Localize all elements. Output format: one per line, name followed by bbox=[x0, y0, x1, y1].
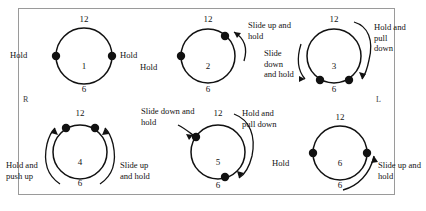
clock-1-dot-left bbox=[52, 52, 60, 60]
clock-5-bottom-label: 6 bbox=[200, 180, 236, 190]
clock-2-label-left: Hold bbox=[140, 62, 157, 72]
clock-4-label-hold-and-push-up: Hold and push up bbox=[6, 160, 40, 181]
clock-5-dot-upper-left bbox=[192, 133, 200, 141]
clock-3-top-label: 12 bbox=[316, 14, 352, 24]
clock-6-number: 6 bbox=[322, 158, 358, 168]
clock-3-bottom-label: 6 bbox=[316, 84, 352, 94]
side-marker-right: R bbox=[23, 95, 29, 104]
clock-unit-5: 12 6 5 Slide down and hold Hold and pull… bbox=[172, 108, 302, 192]
clock-unit-3: 12 6 3 Hold and pull down Slide down and… bbox=[296, 14, 426, 98]
clock-4-dot-upper-right bbox=[91, 124, 99, 132]
clock-1-bottom-label: 6 bbox=[66, 84, 102, 94]
clock-2-bottom-label: 6 bbox=[190, 84, 226, 94]
clock-6-dot-right bbox=[363, 149, 371, 157]
clock-5-label-slide-down-and-hold: Slide down and hold bbox=[141, 106, 197, 127]
clock-2-dot-left bbox=[177, 52, 185, 60]
clock-5-label-hold-and-pull-down: Hold and pull down bbox=[242, 108, 288, 129]
clock-unit-1: 12 6 1 Hold Hold bbox=[36, 14, 166, 98]
clock-6-label-slide-up-and-hold: Slide up and hold bbox=[378, 160, 422, 181]
clock-3-dot-lower-right bbox=[345, 76, 353, 84]
clock-6-dot-left bbox=[309, 149, 317, 157]
clock-unit-6: 12 6 6 Hold Slide up and hold bbox=[300, 112, 426, 196]
clock-2-label-slide-up-and-hold: Slide up and hold bbox=[248, 20, 294, 41]
clock-3-dot-lower-left bbox=[316, 76, 324, 84]
clock-1-dot-right bbox=[108, 52, 116, 60]
clock-4-dot-upper-left bbox=[62, 124, 70, 132]
clock-6-label-left: Hold bbox=[272, 158, 289, 168]
clock-5-top-label: 12 bbox=[200, 108, 236, 118]
clock-3-label-hold-and-pull-down: Hold and pull down bbox=[374, 22, 406, 54]
clock-2-dot-upper-right bbox=[221, 32, 229, 40]
clock-1-number: 1 bbox=[66, 61, 102, 71]
clock-3-label-slide-down-and-hold: Slide down and hold bbox=[264, 48, 296, 80]
clock-2-top-label: 12 bbox=[190, 14, 226, 24]
clock-6-bottom-label: 6 bbox=[322, 180, 358, 190]
clock-4-bottom-label: 6 bbox=[62, 178, 98, 188]
clock-1-top-label: 12 bbox=[66, 14, 102, 24]
clock-3-arrow-down-left bbox=[298, 44, 305, 79]
clock-4-label-slide-up-and-hold: Slide up and hold bbox=[120, 160, 154, 181]
clock-6-face bbox=[300, 112, 426, 196]
clock-6-top-label: 12 bbox=[322, 112, 358, 122]
clock-1-label-left: Hold bbox=[10, 50, 27, 60]
clock-4-number: 4 bbox=[62, 157, 98, 167]
clock-2-number: 2 bbox=[190, 61, 226, 71]
clock-1-label-right: Hold bbox=[120, 50, 137, 60]
clock-3-number: 3 bbox=[316, 61, 352, 71]
clock-5-number: 5 bbox=[200, 157, 236, 167]
clock-4-top-label: 12 bbox=[62, 108, 98, 118]
